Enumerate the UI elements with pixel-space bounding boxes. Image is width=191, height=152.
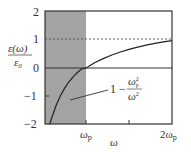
y-tick-label-minus1: −1: [24, 89, 37, 103]
annotation-one-minus: 1 −: [110, 82, 126, 96]
y-axis-label-denominator: ε0: [14, 56, 22, 70]
annotation-numerator: ω2p: [128, 75, 139, 88]
y-axis-label-numerator: ε(ω): [8, 42, 28, 55]
annotation-denominator: ω2: [128, 90, 139, 102]
y-tick-label-1: 1: [33, 32, 39, 46]
y-tick-label-0: 0: [33, 61, 39, 75]
y-tick-label-2: 2: [33, 5, 39, 19]
y-tick-label-minus2: −2: [24, 117, 37, 131]
x-axis-label: ω: [110, 136, 118, 148]
x-tick-label-2wp: 2ωp: [160, 128, 177, 142]
dielectric-function-chart: 2 1 0 −1 −2 ε(ω) ε0 ωp 2ωp ω 1 − ω2p ω2: [0, 0, 191, 152]
x-tick-label-wp: ωp: [80, 128, 92, 142]
